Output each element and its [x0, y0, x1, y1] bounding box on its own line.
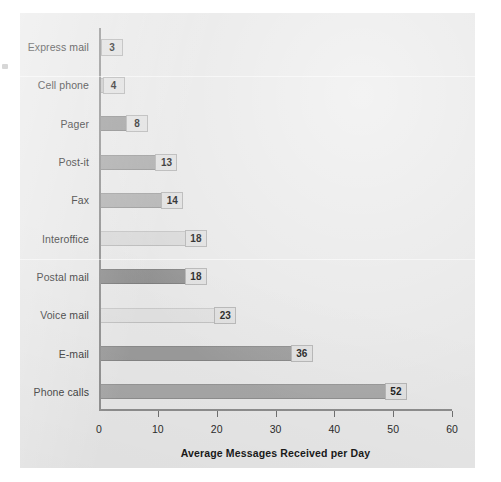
bar-category-label: Post-it — [59, 156, 89, 168]
bar-category-label: Express mail — [28, 41, 89, 53]
bar-row[interactable]: Pager8 — [99, 116, 452, 131]
bar-category-label: Postal mail — [37, 271, 89, 283]
x-axis-title: Average Messages Received per Day — [99, 447, 452, 459]
bar-row[interactable]: Interoffice18 — [99, 231, 452, 246]
bar-value-label: 23 — [214, 307, 236, 324]
bar-shape[interactable] — [101, 346, 313, 361]
bar-value-label: 52 — [385, 383, 407, 400]
x-axis-tick-label: 0 — [96, 423, 102, 435]
bar-chart-panel: Express mail3Cell phone4Pager8Post-it13F… — [20, 13, 475, 468]
x-axis-tick — [334, 411, 335, 417]
scan-artifact-mark — [2, 64, 8, 69]
x-axis-tick — [276, 411, 277, 417]
x-axis-tick-label: 20 — [211, 423, 223, 435]
x-axis-tick-label: 60 — [446, 423, 458, 435]
x-axis-tick-label: 30 — [270, 423, 282, 435]
bar-value-label: 4 — [103, 77, 125, 94]
bar-category-label: Phone calls — [34, 386, 89, 398]
x-axis-tick — [217, 411, 218, 417]
bar-row[interactable]: Voice mail23 — [99, 308, 452, 323]
x-axis-tick — [393, 411, 394, 417]
plot-area: Express mail3Cell phone4Pager8Post-it13F… — [99, 28, 452, 411]
bar-shape[interactable] — [101, 384, 407, 399]
x-axis-tick-label: 40 — [328, 423, 340, 435]
bar-value-label: 18 — [185, 268, 207, 285]
bar-row[interactable]: Post-it13 — [99, 155, 452, 170]
bar-value-label: 18 — [185, 230, 207, 247]
bar-row[interactable]: Postal mail18 — [99, 269, 452, 284]
bar-category-label: Cell phone — [38, 79, 89, 91]
bar-category-label: E-mail — [59, 348, 89, 360]
bar-value-label: 36 — [291, 345, 313, 362]
x-axis-tick — [158, 411, 159, 417]
bar-value-label: 13 — [155, 154, 177, 171]
x-axis-tick-label: 10 — [152, 423, 164, 435]
bar-row[interactable]: Fax14 — [99, 193, 452, 208]
bar-category-label: Voice mail — [40, 309, 89, 321]
bar-value-label: 3 — [101, 39, 123, 56]
x-axis-tick — [452, 411, 453, 417]
bar-row[interactable]: Phone calls52 — [99, 384, 452, 399]
x-axis-tick-label: 50 — [387, 423, 399, 435]
bar-category-label: Interoffice — [42, 233, 89, 245]
bar-value-label: 8 — [126, 115, 148, 132]
bar-row[interactable]: Express mail3 — [99, 40, 452, 55]
bar-category-label: Pager — [60, 118, 89, 130]
bar-category-label: Fax — [71, 194, 89, 206]
bar-row[interactable]: E-mail36 — [99, 346, 452, 361]
bar-value-label: 14 — [161, 192, 183, 209]
bar-row[interactable]: Cell phone4 — [99, 78, 452, 93]
